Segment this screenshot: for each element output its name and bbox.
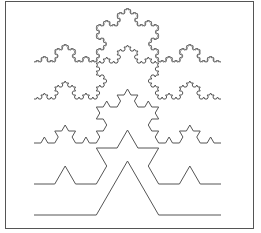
- koch-curves-diagram: [0, 0, 261, 233]
- koch-curve-level-3: [34, 89, 221, 143]
- koch-curve-level-1: [34, 161, 221, 215]
- koch-curve-level-2: [34, 130, 221, 184]
- koch-curve-level-5: [34, 8, 221, 62]
- koch-curve-level-4: [34, 45, 221, 99]
